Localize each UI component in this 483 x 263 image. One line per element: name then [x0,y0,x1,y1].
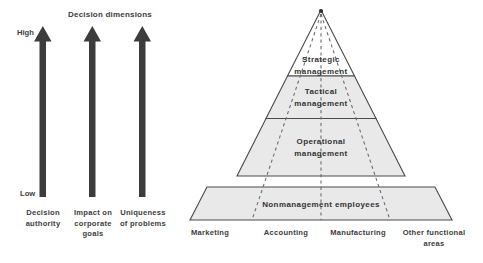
decision-dimensions-title: Decision dimensions [68,10,152,19]
functional-area-label-other-functional-areas: Other functional areas [391,228,477,249]
pyramid-label-nonmanagement-employees: Nonmanagement employees [216,199,426,211]
axis-label-high: High [17,28,34,37]
pyramid-apex-point [319,9,323,13]
arrow-decision-authority [34,26,52,197]
dimension-label-uniqueness-of-problems: Uniqueness of problems [110,208,176,229]
functional-area-label-marketing: Marketing [175,228,245,239]
pyramid-label-tactical-management: Tactical management [266,86,376,109]
pyramid-label-strategic-management: Strategic management [266,54,376,77]
functional-area-label-manufacturing: Manufacturing [317,228,399,239]
decision-dimensions-pyramid-figure: Decision dimensions High Low Decision au… [0,0,483,263]
pyramid-label-operational-management: Operational management [261,136,381,159]
arrow-uniqueness-of-problems [134,26,152,197]
arrow-impact-on-corporate-goals [84,26,102,197]
decision-dimension-arrows [34,26,151,197]
functional-area-label-accounting: Accounting [249,228,323,239]
axis-label-low: Low [20,189,35,198]
pyramid-graphic [190,9,452,220]
